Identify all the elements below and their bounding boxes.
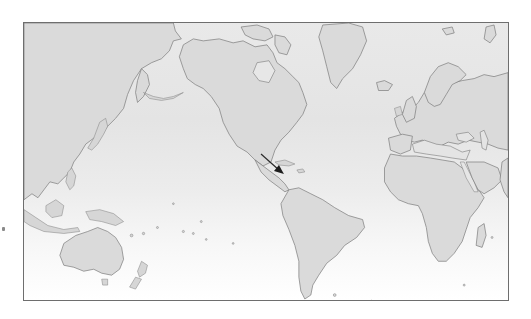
tasmania <box>102 279 108 285</box>
world-map <box>23 22 509 301</box>
hispaniola <box>297 169 305 173</box>
north-america <box>179 39 306 166</box>
asia-east-landmass <box>24 23 181 200</box>
pacific-island <box>232 243 234 245</box>
pacific-island <box>156 227 158 229</box>
pacific-island <box>205 239 207 241</box>
greenland <box>319 23 367 89</box>
borneo <box>46 200 64 218</box>
pacific-island <box>200 221 202 223</box>
novaya-zemlya <box>484 25 496 43</box>
great-britain <box>402 96 416 122</box>
margin-mark <box>2 227 5 231</box>
cuba <box>275 160 295 166</box>
india <box>500 158 508 198</box>
australia <box>60 228 124 276</box>
madagascar <box>476 224 486 248</box>
baffin-island <box>275 35 291 55</box>
new-zealand-north <box>138 261 148 277</box>
page <box>0 0 531 319</box>
pacific-island <box>192 232 194 234</box>
aleutian-islands <box>144 92 184 100</box>
pacific-island <box>142 232 144 234</box>
new-zealand-south <box>130 277 142 289</box>
southern-island <box>463 284 465 286</box>
map-svg <box>24 23 508 300</box>
pacific-island <box>182 230 184 232</box>
falkland-islands <box>333 294 336 297</box>
south-america <box>281 188 365 299</box>
iberia <box>388 134 412 154</box>
svalbard <box>442 27 454 35</box>
canadian-arctic-islands <box>241 25 273 41</box>
pacific-island <box>172 203 174 205</box>
mauritius <box>491 236 493 238</box>
iceland <box>377 81 393 91</box>
ireland <box>394 106 402 116</box>
new-guinea <box>86 210 124 226</box>
pacific-island <box>130 234 133 237</box>
